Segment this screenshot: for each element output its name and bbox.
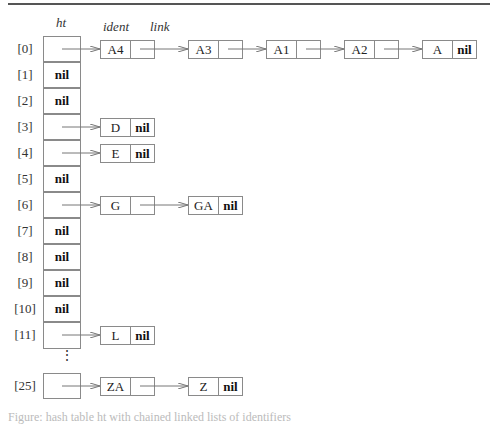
figure-caption: Figure: hash table ht with chained linke…	[8, 410, 291, 425]
